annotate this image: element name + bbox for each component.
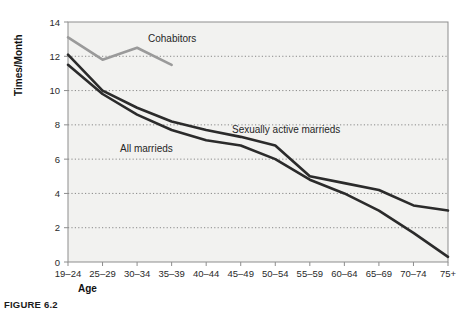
x-tick-label: 40–44 [193, 268, 219, 279]
y-axis-title: Times/Month [13, 34, 24, 95]
x-tick-label: 50–54 [262, 268, 288, 279]
series-label: Sexually active marrieds [232, 124, 340, 135]
x-tick-label: 45–49 [228, 268, 254, 279]
x-tick-label: 60–64 [331, 268, 357, 279]
figure-caption: FIGURE 6.2 [4, 299, 58, 310]
series-label: Cohabitors [148, 33, 196, 44]
x-tick-label: 75+ [440, 268, 457, 279]
series-label: All marrieds [120, 143, 173, 154]
x-tick-label: 30–34 [124, 268, 150, 279]
y-axis-ticks: 02468101214 [49, 17, 68, 268]
y-tick-label: 2 [55, 222, 60, 233]
figure-container: 02468101214 19–2425–2930–3435–3940–4445–… [0, 0, 473, 318]
y-tick-label: 8 [55, 119, 60, 130]
x-tick-label: 25–29 [89, 268, 115, 279]
y-tick-label: 14 [49, 17, 60, 28]
x-tick-label: 55–59 [297, 268, 323, 279]
y-tick-label: 6 [55, 154, 60, 165]
x-axis-title: Age [78, 283, 97, 294]
y-tick-label: 10 [49, 85, 60, 96]
x-tick-label: 65–69 [366, 268, 392, 279]
y-tick-label: 4 [55, 188, 60, 199]
x-tick-label: 35–39 [158, 268, 184, 279]
x-tick-label: 19–24 [55, 268, 81, 279]
y-tick-label: 0 [55, 257, 60, 268]
y-tick-label: 12 [49, 51, 60, 62]
line-chart: 02468101214 19–2425–2930–3435–3940–4445–… [0, 0, 473, 296]
x-axis-ticks: 19–2425–2930–3435–3940–4445–4950–5455–59… [55, 262, 457, 279]
x-tick-label: 70–74 [400, 268, 426, 279]
